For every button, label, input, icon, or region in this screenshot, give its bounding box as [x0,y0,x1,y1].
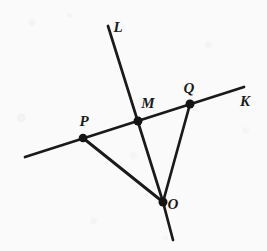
point-dot-P [79,134,88,143]
geometry-figure: P M Q O L K [0,0,267,251]
point-dot-O [159,198,168,207]
segment-PO [83,138,163,202]
point-label-Q: Q [184,81,195,96]
line-L-upper [108,26,163,202]
point-label-M: M [141,96,154,111]
point-dot-M [134,117,143,126]
point-label-P: P [79,114,88,129]
segment-QO [163,104,190,202]
geometry-canvas [0,0,267,251]
point-label-O: O [168,197,179,212]
line-label-K: K [240,94,250,109]
point-dot-Q [186,100,195,109]
line-label-L: L [113,20,122,35]
